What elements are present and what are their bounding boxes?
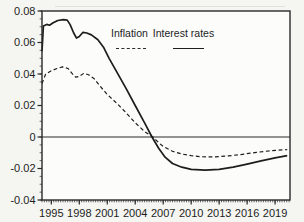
plot-area	[42, 11, 290, 200]
y-tick-label: -0.02	[10, 162, 35, 174]
y-tick-label: 0.02	[14, 99, 35, 111]
x-tick-label: 2013	[207, 207, 231, 219]
legend-dashed-line-sample	[116, 48, 146, 49]
y-tick-label: 0	[29, 131, 35, 143]
scan-artifact	[55, 6, 285, 7]
y-tick-label: 0.06	[14, 36, 35, 48]
chart-figure: 0.080.060.040.020-0.02-0.041995199820012…	[0, 0, 304, 222]
y-tick-label: -0.04	[10, 194, 35, 206]
x-tick-label: 2019	[263, 207, 287, 219]
y-tick-label: 0.04	[14, 68, 35, 80]
legend-solid-line-sample	[173, 48, 204, 49]
x-tick-label: 1998	[67, 207, 91, 219]
x-tick-label: 2010	[179, 207, 203, 219]
y-tick-label: 0.08	[14, 5, 35, 17]
legend-label-interest-rates: Interest rates	[149, 27, 218, 39]
x-tick-label: 1995	[39, 207, 63, 219]
x-tick-label: 2007	[151, 207, 175, 219]
x-tick-label: 2004	[123, 207, 147, 219]
legend-label-inflation: Inflation	[106, 27, 153, 39]
x-tick-label: 2016	[235, 207, 259, 219]
x-tick-label: 2001	[95, 207, 119, 219]
